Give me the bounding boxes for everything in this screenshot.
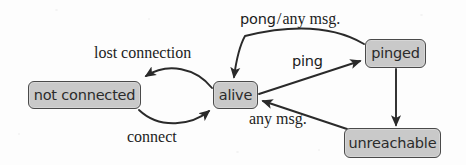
edge-label-any-msg: any msg. xyxy=(249,111,307,127)
edge-label-pong-any-msg: pong / any msg. xyxy=(240,10,340,27)
edge-label-ping: ping xyxy=(292,54,323,69)
state-node-pinged[interactable]: pinged xyxy=(365,39,426,68)
paper-speckle xyxy=(420,14,423,16)
edge-alive-to-not-connected xyxy=(146,68,212,88)
edge-label-slash: / xyxy=(276,10,283,27)
state-label-alive: alive xyxy=(219,88,252,103)
state-node-not-connected[interactable]: not connected xyxy=(28,81,141,109)
edge-not-connected-to-alive xyxy=(139,110,209,123)
paper-speckle xyxy=(318,149,320,151)
edge-label-lost-connection: lost connection xyxy=(94,45,191,61)
paper-speckle xyxy=(55,9,58,11)
state-label-unreachable: unreachable xyxy=(349,136,437,151)
state-node-alive[interactable]: alive xyxy=(213,81,258,109)
paper-speckle xyxy=(18,133,20,135)
edge-label-pong-alt: any msg. xyxy=(282,11,340,27)
paper-speckle xyxy=(148,18,150,20)
paper-speckle xyxy=(236,151,239,153)
state-label-pinged: pinged xyxy=(371,46,420,61)
edge-label-connect: connect xyxy=(127,129,177,145)
state-diagram: not connected alive pinged unreachable l… xyxy=(0,0,466,165)
state-label-not-connected: not connected xyxy=(34,88,136,103)
state-node-unreachable[interactable]: unreachable xyxy=(344,128,441,158)
edge-label-pong: pong xyxy=(240,12,276,27)
